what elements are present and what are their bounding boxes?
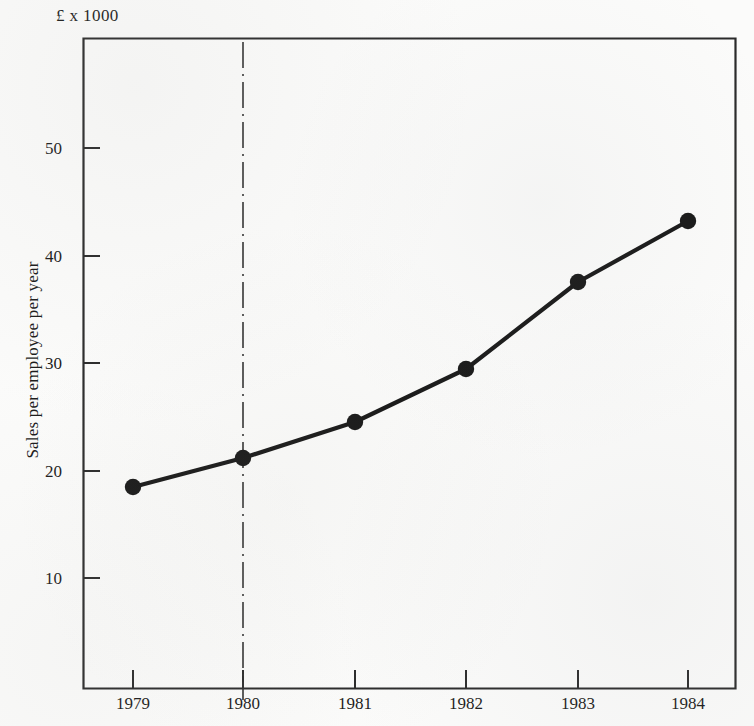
data-point-markers xyxy=(125,213,696,495)
data-line-sales-per-employee xyxy=(133,221,688,487)
plot-area xyxy=(0,0,754,726)
data-point-1983 xyxy=(570,274,586,290)
data-point-1979 xyxy=(125,479,141,495)
data-point-1982 xyxy=(458,361,474,377)
data-point-1980 xyxy=(235,450,251,466)
frame-border xyxy=(84,39,736,689)
data-point-1981 xyxy=(347,414,363,430)
axis-frame xyxy=(84,39,736,689)
data-point-1984 xyxy=(680,213,696,229)
line-chart: £ x 1000 Sales per employee per year 50 … xyxy=(0,0,754,726)
x-axis-ticks xyxy=(133,670,688,689)
y-axis-ticks xyxy=(84,148,101,578)
